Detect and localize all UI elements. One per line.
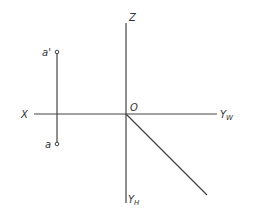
point-a [55, 142, 59, 146]
z-axis-label: Z [128, 12, 137, 23]
projection-diagram: Z O X YW YH a' a [0, 0, 257, 221]
yw-axis-label: YW [220, 109, 234, 122]
yh-axis-label: YH [128, 194, 140, 207]
point-a-label: a [45, 139, 51, 150]
diagonal-45-line [126, 114, 207, 195]
x-axis-label: X [20, 109, 29, 120]
yw-subscript: W [226, 114, 234, 122]
origin-label: O [130, 102, 138, 113]
point-a-prime [55, 50, 59, 54]
point-a-prime-label: a' [42, 47, 51, 58]
yh-subscript: H [134, 199, 140, 207]
